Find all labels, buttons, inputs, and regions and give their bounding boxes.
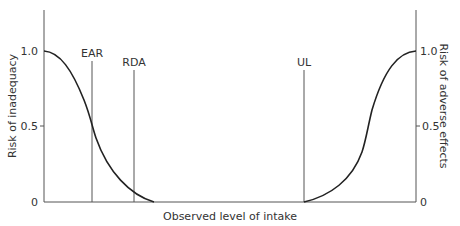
tick-right-05: 0.5	[422, 120, 440, 133]
tick-left-1: 1.0	[21, 45, 39, 58]
tick-right-1: 1.0	[420, 45, 438, 58]
rda-label: RDA	[122, 56, 146, 69]
y-axis-left-title: Risk of inadequacy	[6, 53, 19, 158]
adverse-effects-curve	[304, 51, 416, 202]
nutrient-risk-diagram: 1.0 0.5 0 1.0 0.5 0 Risk of inadequacy R…	[0, 0, 460, 226]
tick-left-05: 0.5	[21, 120, 39, 133]
tick-left-0: 0	[31, 196, 38, 209]
ear-label: EAR	[81, 47, 103, 60]
tick-right-0: 0	[420, 196, 427, 209]
y-axis-right-title: Risk of adverse effects	[437, 43, 450, 168]
inadequacy-curve	[44, 51, 154, 202]
x-axis-title: Observed level of intake	[163, 210, 297, 223]
ul-label: UL	[297, 56, 312, 69]
